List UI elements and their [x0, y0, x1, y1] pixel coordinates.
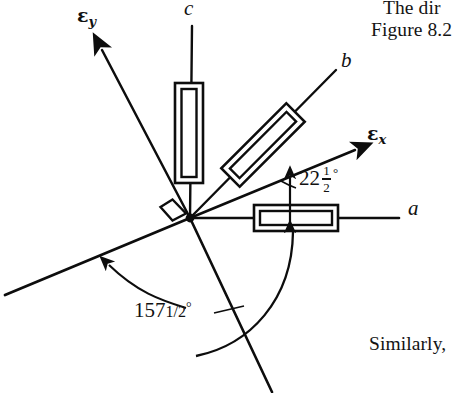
epsilon-y-symbol: ε: [77, 4, 89, 26]
gauge-b: [221, 103, 304, 186]
epsilon-x-symbol: ε: [367, 122, 379, 144]
angle-157-5-half: 1/2: [166, 303, 186, 320]
axis-label-epsilon-y: εy: [77, 6, 96, 25]
page-text-top-line-2: Figure 8.2: [371, 20, 452, 40]
epsilon-y-subscript: y: [89, 14, 97, 29]
axis-label-c: c: [184, 0, 193, 19]
axis-label-epsilon-x: εx: [367, 124, 386, 143]
angle-22-5-whole: 22: [299, 168, 320, 189]
gauge-a: [254, 205, 338, 231]
angle-22-5-fraction: 1 2: [322, 164, 331, 194]
axis-line-epsilon-y-extension: [5, 218, 190, 295]
angle-22-5-degree-sign: °: [333, 166, 338, 179]
angle-label-22-5: 22 1 2 °: [299, 164, 338, 194]
gauge-c: [175, 83, 203, 183]
epsilon-x-subscript: x: [379, 132, 387, 147]
figure-container: a b c εx εy 22 1 2 ° 1571/2° The dir Fig…: [0, 0, 474, 393]
angle-22-5-denominator: 2: [322, 181, 331, 194]
angle-arc-157-5: [196, 232, 293, 356]
page-text-bottom-line: Similarly,: [369, 334, 446, 354]
axis-label-a: a: [408, 198, 419, 219]
axis-line-epsilon-x-extension: [190, 218, 272, 392]
angle-157-5-degree-sign: °: [186, 300, 192, 315]
angle-leader-dash: [214, 306, 244, 313]
angle-22-5-numerator: 1: [322, 164, 331, 177]
axis-lines: [5, 26, 399, 392]
axis-label-b: b: [341, 50, 352, 71]
origin-point: [186, 214, 195, 223]
angle-157-5-whole: 157: [134, 298, 166, 322]
angle-label-157-5: 1571/2°: [134, 300, 192, 321]
page-text-top-line-1: The dir: [383, 0, 441, 18]
